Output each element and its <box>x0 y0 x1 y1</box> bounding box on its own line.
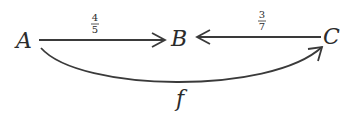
edge-f-label: f <box>174 86 188 111</box>
node-b: B <box>170 26 187 51</box>
node-c: C <box>323 24 340 49</box>
edge-a-b-denominator: 5 <box>92 24 98 35</box>
edge-c-to-b: 3 7 <box>197 9 321 44</box>
edge-a-to-b: 4 5 <box>39 12 165 47</box>
node-a: A <box>14 28 32 53</box>
edge-a-b-numerator: 4 <box>92 12 98 23</box>
diagram-canvas: A B C 4 5 3 7 f <box>0 0 356 120</box>
edge-a-to-c-curved: f <box>41 47 322 111</box>
edge-c-b-numerator: 3 <box>259 9 265 20</box>
edge-c-b-denominator: 7 <box>259 21 265 32</box>
